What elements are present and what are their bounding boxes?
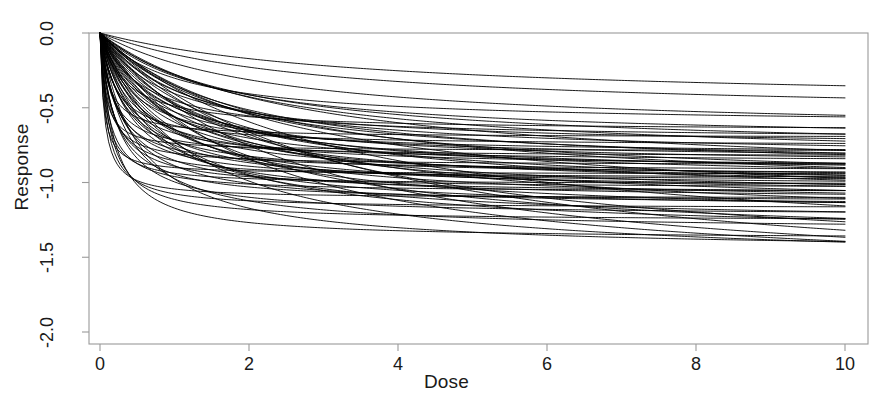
y-tick-label: 0.0: [37, 6, 58, 62]
y-tick-label: -1.0: [37, 155, 58, 211]
x-tick-label: 0: [75, 354, 125, 375]
axis-ticks: [82, 33, 845, 351]
response-curve: [100, 33, 845, 128]
response-curve: [100, 33, 845, 136]
response-curves: [100, 33, 845, 242]
x-tick-label: 4: [373, 354, 423, 375]
x-tick-label: 6: [522, 354, 572, 375]
y-tick-label: -0.5: [37, 80, 58, 136]
x-tick-label: 8: [671, 354, 721, 375]
y-axis-title: Response: [11, 87, 33, 247]
response-curve: [100, 33, 845, 98]
x-tick-label: 2: [224, 354, 274, 375]
chart-canvas: Dose Response 0246810 0.0-0.5-1.0-1.5-2.…: [0, 0, 893, 410]
y-tick-label: -2.0: [37, 305, 58, 361]
x-tick-label: 10: [820, 354, 870, 375]
x-axis-title: Dose: [0, 371, 893, 393]
dose-response-spaghetti-plot: [0, 0, 893, 410]
response-curve: [100, 33, 845, 86]
y-tick-label: -1.5: [37, 230, 58, 286]
response-curve: [100, 33, 845, 128]
